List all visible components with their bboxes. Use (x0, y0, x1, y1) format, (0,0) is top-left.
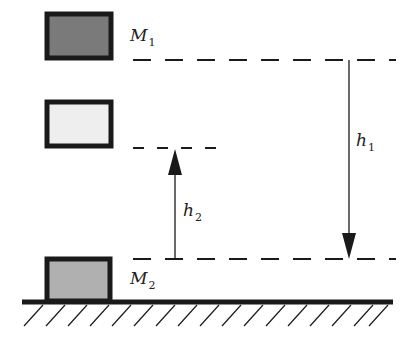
label-h2: h2 (183, 200, 202, 224)
ground (22, 302, 393, 326)
block-m1 (47, 14, 111, 58)
arrow-h1 (342, 60, 356, 259)
label-h1: h1 (356, 130, 375, 154)
collision-diagram: M1 M2 h1 h2 (0, 0, 406, 349)
ground-hatching (24, 305, 388, 326)
block-rebound (47, 102, 111, 146)
block-m2 (47, 259, 110, 301)
arrow-h2 (168, 149, 182, 259)
label-m2: M2 (129, 268, 155, 292)
label-m1: M1 (129, 25, 155, 49)
